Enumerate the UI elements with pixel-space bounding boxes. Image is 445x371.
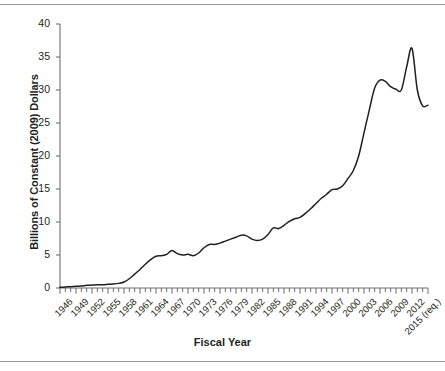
axis-lines (60, 24, 428, 288)
figure-container: Billions of Constant (2009) Dollars Fisc… (0, 0, 445, 371)
data-series-line (60, 48, 428, 288)
top-divider-rule (0, 4, 445, 5)
line-chart-svg (0, 6, 445, 358)
axis-ticks (56, 24, 428, 294)
chart-plot-area: Billions of Constant (2009) Dollars Fisc… (0, 6, 445, 358)
